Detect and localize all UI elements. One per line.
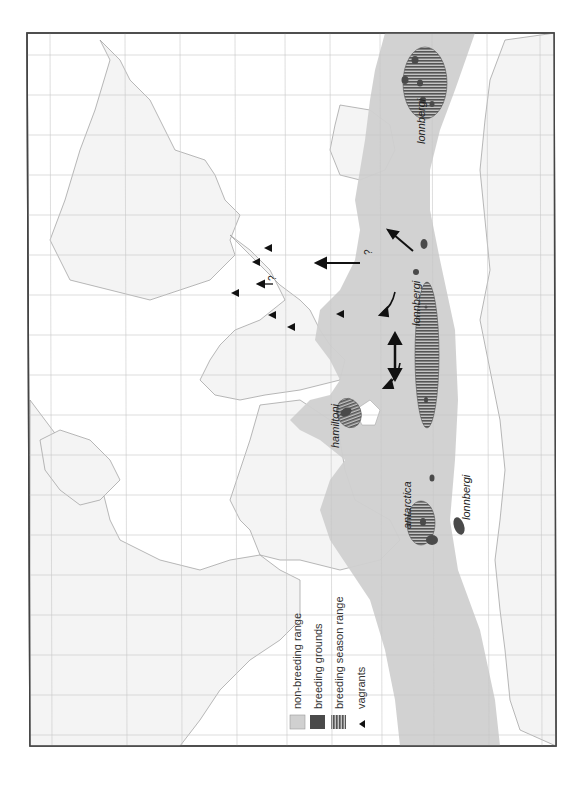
- legend-swatch-non-breeding: [290, 715, 305, 729]
- question-mark-short-arrow: ?: [267, 275, 278, 281]
- label-lonnbergi-south-georgia: lonnbergi: [460, 474, 472, 520]
- legend-swatch-breeding-season: [331, 715, 346, 729]
- label-lonnbergi-nz: lonnbergi: [415, 98, 427, 144]
- legend-label-breeding-grounds: breeding grounds: [312, 623, 324, 709]
- breeding-ground: [424, 397, 428, 403]
- breeding-ground: [425, 306, 428, 309]
- breeding-ground: [420, 518, 426, 526]
- breeding-ground: [413, 269, 419, 275]
- label-hamiltoni: hamiltoni: [329, 403, 341, 448]
- question-mark-long-arrow: ?: [363, 249, 374, 255]
- legend-label-vagrants: vagrants: [355, 666, 367, 709]
- breeding-ground: [412, 56, 419, 64]
- legend-label-breeding-season: breeding season range: [333, 596, 345, 709]
- breeding-ground: [426, 535, 438, 545]
- legend-label-non-breeding: non-breeding range: [291, 613, 303, 709]
- legend-swatch-breeding-grounds: [310, 715, 325, 729]
- breeding-ground: [402, 76, 409, 84]
- breeding-ground: [421, 239, 428, 249]
- breeding-ground: [417, 80, 423, 87]
- breeding-ground: [430, 475, 435, 482]
- breeding-ground: [430, 101, 435, 107]
- map-figure: ? ? lonnbergi lonnbergi hamiltoni antarc…: [0, 0, 579, 785]
- label-lonnbergi-indian: lonnbergi: [410, 280, 422, 326]
- label-antarctica: antarctica: [401, 481, 413, 529]
